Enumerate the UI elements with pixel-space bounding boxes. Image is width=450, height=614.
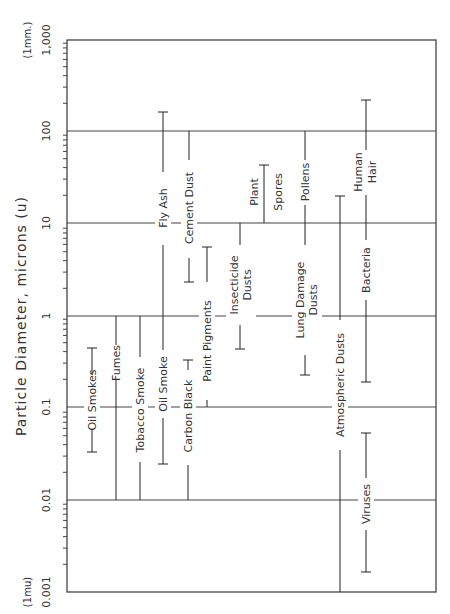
bottom-note: (1mu) (22, 577, 33, 607)
tick-10: 10 (40, 216, 53, 230)
tick-0.1: 0.1 (40, 398, 53, 416)
label-oil-smoke: Oil Smoke (157, 356, 170, 412)
label-fly-ash: Fly Ash (157, 188, 170, 228)
label-bacteria: Bacteria (360, 247, 373, 293)
label-plant: Plant (248, 177, 261, 205)
label-pollens: Pollens (299, 162, 312, 201)
tick-1: 1 (40, 313, 53, 320)
tick-0.001: 0.001 (40, 576, 53, 608)
label-viruses: Viruses (360, 484, 373, 524)
particle-size-chart: 1,000 100 10 1 0.1 0.01 0.001 Particle D… (0, 0, 450, 614)
label-hair: Hair (366, 160, 379, 183)
label-oil-smokes: Oil Smokes (86, 369, 99, 430)
label-atmospheric-dusts: Atmospheric Dusts (334, 333, 347, 437)
range-labels: Oil Smokes Fumes Tobacco Smoke Oil Smoke… (84, 151, 382, 529)
label-spores: Spores (272, 173, 285, 211)
y-axis-title: Particle Diameter, microns (u) (13, 196, 29, 436)
top-note: (1mm.) (22, 21, 33, 58)
label-cement-dust: Cement Dust (183, 171, 196, 244)
tick-1000: 1,000 (40, 24, 53, 56)
label-paint-pigments: Paint Pigments (201, 300, 214, 382)
label-tobacco-smoke: Tobacco Smoke (134, 367, 147, 453)
label-fumes: Fumes (110, 345, 123, 381)
y-tick-labels: 1,000 100 10 1 0.1 0.01 0.001 (40, 24, 53, 608)
label-insecticide-dusts: Dusts (241, 269, 254, 300)
label-insecticide: Insecticide (228, 255, 241, 314)
label-lung-dusts: Dusts (307, 284, 320, 315)
range-bars (87, 100, 371, 592)
label-human: Human (352, 152, 365, 192)
tick-100: 100 (40, 121, 53, 142)
label-carbon-black: Carbon Black (182, 379, 195, 453)
label-lung-damage: Lung Damage (294, 261, 307, 338)
tick-0.01: 0.01 (40, 488, 53, 513)
